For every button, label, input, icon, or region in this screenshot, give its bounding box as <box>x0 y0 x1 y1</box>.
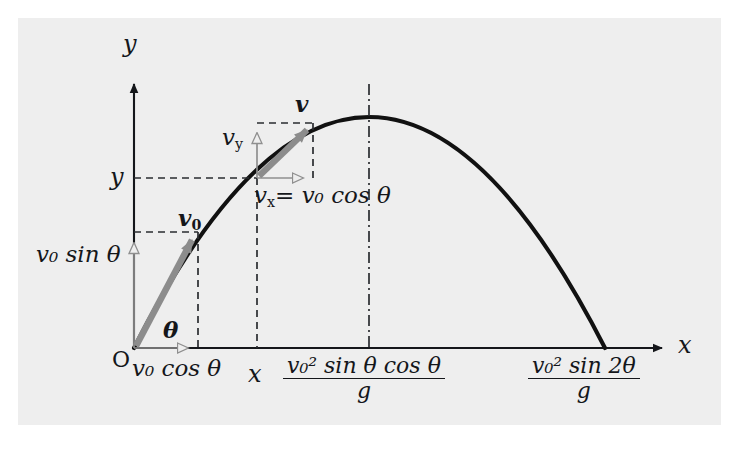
origin-label: O <box>112 349 130 371</box>
apex-x-formula: v₀² sin θ cos θ g <box>283 355 445 402</box>
range-x-numerator: v₀² sin 2θ <box>528 355 640 378</box>
x-tick-label: x <box>248 362 262 386</box>
range-x-fraction: v₀² sin 2θ g <box>528 355 640 402</box>
v0-cos-theta-label: v₀ cos θ <box>132 357 221 380</box>
velocity-vectors <box>136 130 307 346</box>
v-velocity-vector <box>259 130 307 176</box>
y-axis-label: y <box>123 32 137 56</box>
v0-sin-theta-label: v₀ sin θ <box>36 243 121 266</box>
v0-vector-subscript: 0 <box>191 217 201 233</box>
x-axis-label: x <box>678 333 692 357</box>
v0-vector-label: v0 <box>178 206 201 232</box>
theta-origin-label: θ <box>163 318 178 341</box>
v-vector-label: v <box>295 92 308 115</box>
vx-letter: v <box>254 182 267 208</box>
vy-letter: v <box>222 124 235 150</box>
projectile-motion-figure: y x O y x v₀ sin θ v₀ cos θ θ v0 v vy vx… <box>0 0 739 450</box>
range-x-denominator: g <box>528 378 640 402</box>
y-tick-label: y <box>110 165 124 189</box>
vy-component-label: vy <box>222 126 243 151</box>
apex-x-numerator: v₀² sin θ cos θ <box>283 355 445 378</box>
apex-x-fraction: v₀² sin θ cos θ g <box>283 355 445 402</box>
sample-point-dashes <box>134 178 257 348</box>
vx-equation-label: vx= v₀ cos θ <box>254 184 391 209</box>
range-x-formula: v₀² sin 2θ g <box>528 355 640 402</box>
vy-subscript: y <box>235 136 243 152</box>
v0-vector-letter: v <box>178 204 191 231</box>
vx-subscript: x <box>267 194 275 210</box>
vx-equation-rhs: = v₀ cos θ <box>275 182 391 208</box>
apex-x-denominator: g <box>283 378 445 402</box>
